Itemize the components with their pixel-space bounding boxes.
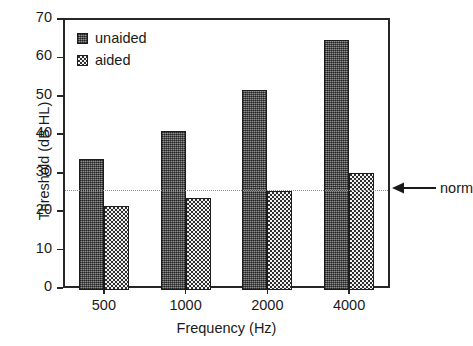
x-axis-title: Frequency (Hz) <box>63 320 390 336</box>
plot-area: unaided aided <box>63 18 390 288</box>
y-tick-label-70: 70 <box>0 9 52 25</box>
x-tick-label-4000: 4000 <box>319 297 379 313</box>
bar-aided-500 <box>104 206 129 290</box>
x-tick-label-2000: 2000 <box>237 297 297 313</box>
y-tick-label-20: 20 <box>0 201 52 217</box>
legend-label-aided: aided <box>95 52 130 68</box>
bar-aided-1000 <box>186 198 211 290</box>
norm-arrow-icon <box>392 181 436 195</box>
y-axis-title: Threshold (dB HL) <box>36 51 52 271</box>
legend-swatch-unaided-icon <box>77 33 88 44</box>
y-tick-label-30: 30 <box>0 163 52 179</box>
legend-item-unaided: unaided <box>77 28 147 48</box>
x-tick-label-1000: 1000 <box>156 297 216 313</box>
legend-item-aided: aided <box>77 50 147 70</box>
y-tick-label-40: 40 <box>0 124 52 140</box>
y-tick-label-60: 60 <box>0 47 52 63</box>
bar-aided-2000 <box>267 191 292 290</box>
bar-unaided-4000 <box>324 40 349 290</box>
x-tick-label-500: 500 <box>74 297 134 313</box>
norm-annotation: norm <box>392 180 473 196</box>
y-tick-label-0: 0 <box>0 278 52 294</box>
legend-swatch-aided-icon <box>77 55 88 66</box>
y-tick-label-10: 10 <box>0 240 52 256</box>
y-tick-label-50: 50 <box>0 86 52 102</box>
norm-label: norm <box>440 180 473 196</box>
bar-unaided-1000 <box>161 131 186 290</box>
legend-label-unaided: unaided <box>95 30 147 46</box>
norm-reference-line <box>65 190 388 191</box>
bar-unaided-500 <box>79 159 104 290</box>
legend: unaided aided <box>77 28 147 72</box>
plot-surface: unaided aided <box>65 20 388 286</box>
